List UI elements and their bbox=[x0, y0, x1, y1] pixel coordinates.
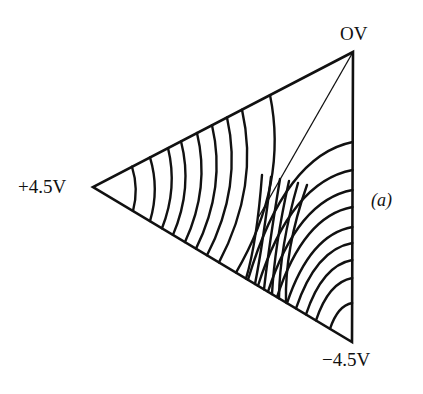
vertex-label-bottom: −4.5V bbox=[322, 350, 370, 369]
equipotential-curve bbox=[162, 148, 172, 228]
equipotential-curve bbox=[287, 227, 352, 303]
equipotential-curve bbox=[185, 133, 202, 242]
panel-label: (a) bbox=[371, 191, 392, 209]
equipotential-lines bbox=[132, 95, 353, 329]
equipotential-curve bbox=[296, 243, 352, 308]
equipotential-curve bbox=[173, 141, 186, 235]
vertex-label-top: OV bbox=[340, 24, 367, 43]
vertex-label-left: +4.5V bbox=[18, 177, 66, 196]
equipotential-curve bbox=[330, 303, 352, 329]
triangle-outline bbox=[93, 52, 353, 342]
equipotential-curve bbox=[207, 117, 232, 255]
equipotential-curve bbox=[132, 167, 136, 211]
triangle-equipotential-diagram bbox=[0, 0, 423, 394]
equipotential-curve bbox=[219, 110, 247, 263]
equipotential-curve bbox=[316, 278, 352, 320]
equipotential-curve bbox=[150, 157, 155, 221]
